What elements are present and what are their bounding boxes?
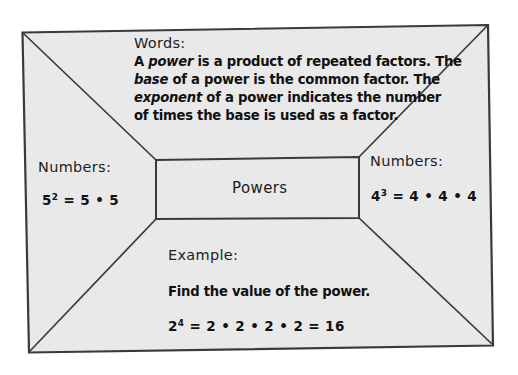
graphic-organizer-stage: Words: A power is a product of repeated … [0, 0, 518, 375]
numbers-right-expression: 43 = 4 • 4 • 4 [371, 190, 477, 204]
words-line-3-part-1: exponent [134, 90, 202, 105]
words-line-1: A power is a product of repeated factors… [134, 55, 462, 68]
example-base: 2 [168, 318, 178, 334]
words-line-1-part-3: is a product of repeated factors. The [193, 54, 462, 69]
example-rest: = 2 • 2 • 2 • 2 = 16 [184, 318, 344, 334]
words-line-3-part-2: of a power indicates the number [202, 90, 441, 105]
words-section-heading: Words: [134, 36, 186, 51]
words-line-1-part-1: A [134, 54, 148, 69]
words-line-2-part-2: of a power is the common factor. The [168, 72, 440, 87]
numbers-right-base: 4 [371, 188, 381, 204]
words-line-2-part-1: base [134, 72, 168, 87]
example-section-heading: Example: [168, 248, 238, 263]
example-expression: 24 = 2 • 2 • 2 • 2 = 16 [168, 320, 345, 334]
words-line-4: of times the base is used as a factor. [134, 109, 398, 122]
numbers-left-base: 5 [42, 192, 52, 208]
numbers-left-heading: Numbers: [38, 160, 111, 175]
words-line-2: base of a power is the common factor. Th… [134, 73, 440, 86]
numbers-left-rest: = 5 • 5 [58, 192, 119, 208]
numbers-left-expression: 52 = 5 • 5 [42, 194, 119, 208]
example-prompt: Find the value of the power. [168, 285, 370, 298]
center-box-label: Powers [232, 181, 288, 196]
numbers-right-rest: = 4 • 4 • 4 [387, 188, 477, 204]
words-line-3: exponent of a power indicates the number [134, 91, 441, 104]
words-line-4-part-1: of times the base is used as a factor. [134, 108, 398, 123]
numbers-right-heading: Numbers: [370, 154, 443, 169]
words-line-1-part-2: power [148, 54, 193, 69]
